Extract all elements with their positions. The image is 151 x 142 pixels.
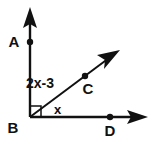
- point-d-label: D: [105, 122, 116, 139]
- angle-diagram: A B C D 2x-3 x: [0, 0, 151, 142]
- point-a-label: A: [9, 33, 20, 50]
- point-c-dot: [82, 73, 88, 79]
- point-a-dot: [27, 39, 33, 45]
- point-d-dot: [107, 114, 113, 120]
- angle-abc-label: 2x-3: [26, 75, 54, 91]
- point-b-label: B: [8, 119, 19, 136]
- angle-cbd-label: x: [54, 102, 62, 117]
- diagram-canvas: A B C D 2x-3 x: [0, 0, 151, 142]
- point-c-label: C: [83, 80, 94, 97]
- ray-bc-arrowhead-icon: [97, 50, 120, 69]
